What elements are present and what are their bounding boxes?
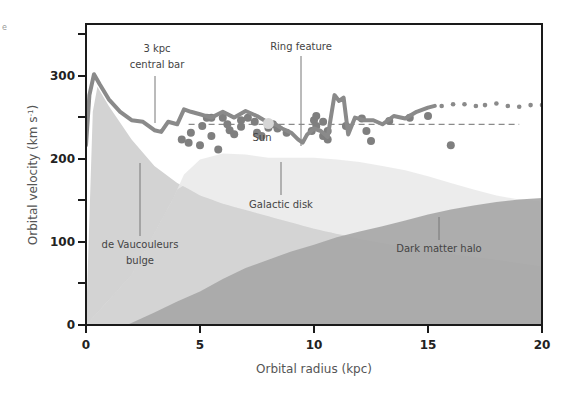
- sun-marker: [263, 118, 274, 129]
- data-point: [362, 127, 370, 135]
- data-point: [447, 141, 455, 149]
- y-tick-100: 100: [50, 235, 75, 249]
- extrapolated-dot: [517, 104, 522, 109]
- extrapolated-dot: [439, 104, 444, 109]
- data-point: [214, 145, 222, 153]
- extrapolated-dot: [494, 101, 499, 106]
- annotation-ring: Ring feature: [270, 41, 332, 52]
- x-tick-15: 15: [420, 338, 437, 352]
- corner-mark: e: [2, 23, 7, 32]
- y-tick-0: 0: [67, 318, 75, 332]
- x-tick-10: 10: [306, 338, 323, 352]
- annotation-sun: Sun: [252, 132, 271, 143]
- data-point: [207, 132, 215, 140]
- data-point: [424, 112, 432, 120]
- extrapolated-dot: [483, 103, 488, 108]
- data-point: [312, 112, 320, 120]
- annotation-halo: Dark matter halo: [396, 243, 481, 254]
- extrapolated-dot: [474, 104, 479, 109]
- data-point: [237, 123, 245, 131]
- extrapolated-dot: [506, 104, 511, 109]
- extrapolated-dot: [451, 102, 456, 107]
- x-axis: [86, 325, 542, 333]
- measured-points: [178, 112, 455, 153]
- data-point: [196, 141, 204, 149]
- x-tick-20: 20: [534, 338, 551, 352]
- plot-area: [86, 56, 544, 325]
- y-axis-title: Orbital velocity (km s-1): [26, 105, 40, 245]
- annotation-bar-line1: 3 kpc: [143, 43, 170, 54]
- x-tick-5: 5: [196, 338, 204, 352]
- data-point: [230, 130, 238, 138]
- annotation-disk: Galactic disk: [249, 199, 313, 210]
- data-point: [367, 137, 375, 145]
- y-tick-300: 300: [50, 69, 75, 83]
- data-point: [251, 118, 259, 126]
- y-tick-200: 200: [50, 152, 75, 166]
- x-tick-0: 0: [82, 338, 90, 352]
- data-point: [319, 118, 327, 126]
- x-axis-title: Orbital radius (kpc): [256, 362, 372, 376]
- data-point: [185, 139, 193, 147]
- data-point: [198, 122, 206, 130]
- data-point: [187, 129, 195, 137]
- data-point: [178, 135, 186, 143]
- extrapolated-dot: [528, 103, 533, 108]
- rotation-curve-chart: 3 kpc central bar Ring feature Sun Galac…: [0, 0, 574, 398]
- rotation-curve-extrapolated-dots: [439, 101, 544, 109]
- extrapolated-dot: [462, 102, 467, 107]
- annotation-bulge-line2: bulge: [126, 255, 154, 266]
- annotation-bulge-line1: de Vaucouleurs: [102, 239, 179, 250]
- annotation-bar-line2: central bar: [130, 59, 186, 70]
- y-axis: [78, 34, 86, 325]
